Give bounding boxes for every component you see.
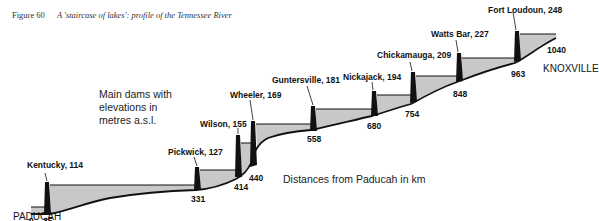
legend-note-line1: Main dams with [99,88,172,100]
km-label-guntersville: 558 [307,134,321,144]
river-profile-diagram: Kentucky, 114 Pickwick, 127 Wilson, 155 … [0,0,599,221]
legend-note-line3: metres a.s.l. [99,114,156,126]
km-label-fort-loudoun: 963 [511,69,525,79]
dam-watts-bar [456,53,463,82]
reservoir-wheeler [256,124,311,150]
km-label-nickajack: 680 [367,121,381,131]
dam-label-nickajack: Nickajack, 194 [343,72,401,82]
km-label-chickamauga: 754 [405,109,419,119]
distances-note: Distances from Paducah in km [283,173,426,185]
reservoir-kentucky [50,185,196,214]
place-label-paducah: PADUCAH [13,211,61,221]
dam-label-watts-bar: Watts Bar, 227 [431,29,489,39]
dam-nickajack [371,91,378,116]
km-label-watts-bar: 848 [453,89,467,99]
legend-note-line2: elevations in [99,101,158,113]
dam-pickwick [194,167,201,190]
km-label-end: 1040 [547,45,566,55]
dam-label-chickamauga: Chickamauga, 209 [377,50,451,60]
reservoir-chickamauga [416,76,457,100]
dam-label-guntersville: Guntersville, 181 [272,75,340,85]
dam-guntersville [310,106,317,131]
km-label-wilson: 414 [234,182,248,192]
reservoir-watts-bar [462,58,515,79]
dam-chickamauga [410,72,417,103]
place-label-knoxville: KNOXVILLE [543,63,599,74]
dam-label-kentucky: Kentucky, 114 [27,160,83,170]
dam-label-pickwick: Pickwick, 127 [168,147,223,157]
dam-wilson [235,135,242,177]
dam-label-wilson: Wilson, 155 [200,119,247,129]
km-label-wheeler: 440 [249,173,263,183]
dam-label-fort-loudoun: Fort Loudoun, 248 [488,5,562,15]
dam-fort-loudoun [514,31,521,62]
dam-label-wheeler: Wheeler, 169 [230,90,282,100]
dam-wheeler [250,121,257,167]
km-label-pickwick: 331 [191,194,205,204]
